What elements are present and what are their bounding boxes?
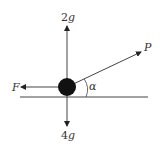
label-angle: α [89,80,97,93]
label-down-force: 4g [61,129,75,142]
particle [58,78,76,96]
force-diagram: 2g 4g F P α [0,0,160,149]
angle-arc [84,79,87,97]
label-angled-force: P [143,41,152,54]
label-up-force: 2g [61,11,75,24]
force-arrow-angled [67,52,141,87]
label-left-force: F [11,81,20,94]
